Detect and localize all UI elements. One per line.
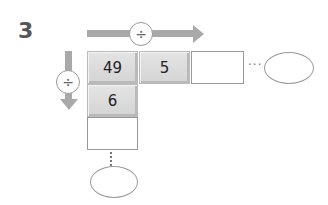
cell-value: 6 [108, 92, 118, 110]
vertical-ellipsis [110, 152, 116, 166]
cell-vertical-2: 6 [87, 84, 138, 117]
cell-horizontal-2: 5 [139, 51, 190, 84]
right-arrow-icon [193, 25, 204, 43]
divide-icon: ÷ [135, 26, 147, 42]
cell-value: 5 [160, 59, 170, 77]
down-arrow-icon [60, 99, 78, 110]
horizontal-result-oval[interactable] [264, 52, 314, 84]
cell-vertical-3-answer[interactable] [87, 117, 138, 150]
vertical-result-oval[interactable] [90, 166, 138, 198]
question-number: 3 [18, 18, 33, 43]
vertical-divide-operator: ÷ [56, 70, 80, 94]
cell-start-value: 49 [87, 51, 138, 84]
horizontal-ellipsis: ··· [248, 58, 262, 72]
horizontal-divide-operator: ÷ [129, 22, 153, 46]
cell-value: 49 [103, 59, 122, 77]
cell-horizontal-3-answer[interactable] [191, 51, 244, 84]
divide-icon: ÷ [62, 74, 74, 90]
